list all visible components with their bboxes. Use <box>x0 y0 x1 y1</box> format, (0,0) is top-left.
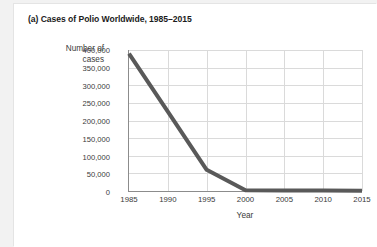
x-tick-label: 2015 <box>353 195 370 204</box>
series-polyline <box>129 50 362 191</box>
y-tick-label: 100,000 <box>64 152 110 161</box>
figure-panel: (a) Cases of Polio Worldwide, 1985–2015 … <box>14 4 377 247</box>
y-tick-label: 300,000 <box>64 81 110 90</box>
x-tick-label: 1985 <box>120 195 137 204</box>
y-tick-label: 150,000 <box>64 134 110 143</box>
x-axis-title: Year <box>128 210 362 220</box>
y-tick-label: 200,000 <box>64 117 110 126</box>
y-tick-label: 250,000 <box>64 99 110 108</box>
x-tick-label: 1995 <box>198 195 215 204</box>
x-tick-label: 2010 <box>314 195 331 204</box>
plot-box: 1985199019952000200520102015 <box>128 50 362 192</box>
figure-title: (a) Cases of Polio Worldwide, 1985–2015 <box>28 14 192 24</box>
figure-page: (a) Cases of Polio Worldwide, 1985–2015 … <box>0 0 377 247</box>
y-tick-label: 400,000 <box>64 46 110 55</box>
chart-area: 1985199019952000200520102015 050,000100,… <box>114 48 362 208</box>
y-tick-label: 350,000 <box>64 63 110 72</box>
gridline-vertical <box>362 50 363 191</box>
x-tick-label: 2000 <box>237 195 254 204</box>
x-tick-label: 1990 <box>159 195 176 204</box>
y-tick-label: 50,000 <box>64 170 110 179</box>
y-tick-label: 0 <box>64 188 110 197</box>
x-tick-label: 2005 <box>276 195 293 204</box>
